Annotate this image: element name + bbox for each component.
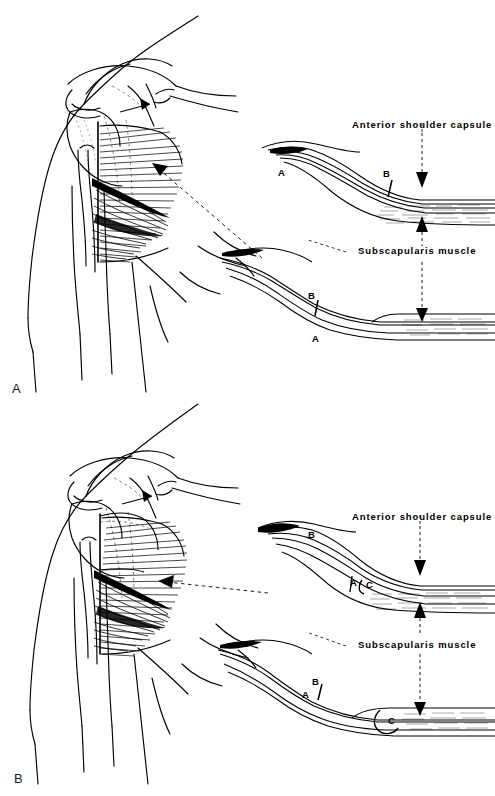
callout-subscapularis-muscle: Subscapularis muscle [358,246,476,256]
callout-anterior-shoulder-capsule: Anterior shoulder capsule [352,120,492,130]
panel-label-b: B [14,772,23,785]
panel-b: B A C [0,398,495,796]
figure-root: A B [0,0,495,796]
panel-label-a: A [12,382,21,395]
callout-anterior-shoulder-capsule: Anterior shoulder capsule [352,512,492,522]
panel-a: A B [0,0,495,398]
callout-leaders-b [0,398,495,796]
callout-leaders-a [0,0,495,398]
callout-subscapularis-muscle: Subscapularis muscle [358,640,476,650]
